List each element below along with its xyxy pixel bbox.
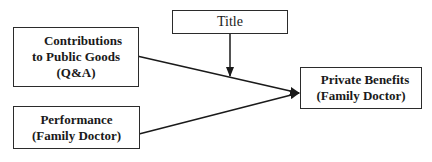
node-text: (Family Doctor) — [313, 88, 409, 104]
node-performance: Performance (Family Doctor) — [13, 106, 140, 149]
node-private-benefits: Private Benefits (Family Doctor) — [300, 67, 422, 109]
node-text: Title — [217, 14, 243, 30]
node-text: Private Benefits — [313, 72, 409, 88]
node-text: Contributions — [30, 33, 122, 49]
node-text: to Public Goods — [30, 49, 122, 65]
node-text: Performance — [32, 112, 121, 128]
node-text: (Q&A) — [30, 65, 122, 81]
edge-contributions-to-private-benefits — [137, 56, 299, 93]
node-text: (Family Doctor) — [32, 128, 121, 144]
node-contributions-public-goods: Contributions to Public Goods (Q&A) — [13, 27, 139, 87]
node-title: Title — [172, 10, 288, 34]
edge-performance-to-private-benefits — [139, 93, 299, 134]
